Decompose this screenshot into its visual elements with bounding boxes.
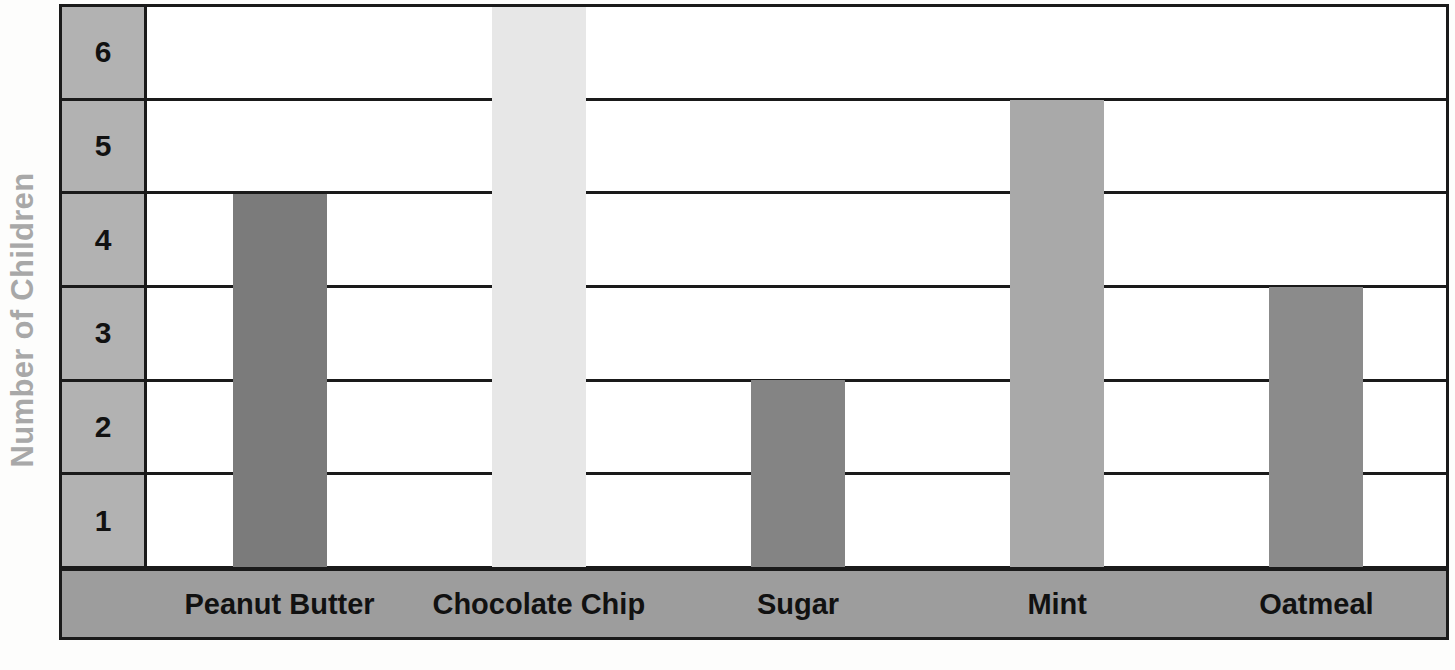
y-tick-3: 3 <box>62 288 147 379</box>
grid-row: 5 <box>62 101 1446 195</box>
x-tick-chocolate-chip: Chocolate Chip <box>409 571 668 637</box>
plot-row-cell <box>147 475 1446 566</box>
y-axis-title: Number of Children <box>3 85 43 555</box>
x-tick-peanut-butter: Peanut Butter <box>150 571 409 637</box>
grid-row: 6 <box>62 7 1446 101</box>
bar-chart: Number of Children 6 5 4 3 2 1 Peanut Bu… <box>0 0 1455 670</box>
y-tick-5: 5 <box>62 101 147 192</box>
grid-row: 2 <box>62 382 1446 476</box>
x-axis-band: Peanut ButterChocolate ChipSugarMintOatm… <box>59 568 1449 640</box>
y-tick-4: 4 <box>62 194 147 285</box>
x-tick-mint: Mint <box>928 571 1187 637</box>
grid-row: 4 <box>62 194 1446 288</box>
plot-row-cell <box>147 382 1446 473</box>
grid-row: 3 <box>62 288 1446 382</box>
plot-row-cell <box>147 7 1446 98</box>
x-tick-oatmeal: Oatmeal <box>1187 571 1446 637</box>
plot-row-cell <box>147 288 1446 379</box>
x-tick-sugar: Sugar <box>668 571 927 637</box>
plot-row-cell <box>147 194 1446 285</box>
y-tick-2: 2 <box>62 382 147 473</box>
y-tick-6: 6 <box>62 7 147 98</box>
grid-row: 1 <box>62 475 1446 569</box>
plot-area: 6 5 4 3 2 1 <box>59 4 1449 570</box>
y-tick-1: 1 <box>62 475 147 566</box>
plot-row-cell <box>147 101 1446 192</box>
